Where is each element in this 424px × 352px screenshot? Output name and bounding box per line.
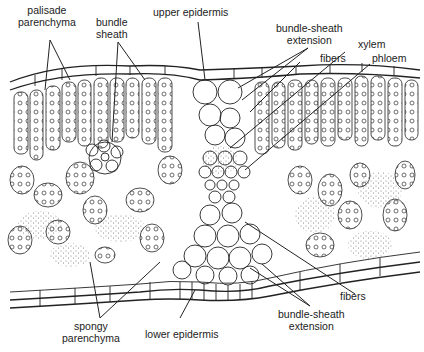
label-spongy-parenchyma: spongy parenchyma <box>62 320 120 344</box>
label-bundle-sheath: bundle sheath <box>96 16 128 40</box>
label-line: sheath <box>96 28 128 40</box>
label-line: palisade <box>18 4 76 16</box>
label-line: extension <box>278 320 345 332</box>
label-line: bundle <box>96 16 128 28</box>
label-phloem: phloem <box>372 52 406 64</box>
label-fibers-bottom: fibers <box>340 290 366 302</box>
label-lower-epidermis: lower epidermis <box>145 328 219 340</box>
label-xylem: xylem <box>358 38 385 50</box>
leaf-cross-section-diagram: palisade parenchyma bundle sheath upper … <box>0 0 424 352</box>
label-line: bundle-sheath <box>276 22 343 34</box>
label-line: bundle-sheath <box>278 308 345 320</box>
label-upper-epidermis: upper epidermis <box>153 6 228 18</box>
label-line: extension <box>276 34 343 46</box>
label-line: parenchyma <box>62 332 120 344</box>
label-palisade-parenchyma: palisade parenchyma <box>18 4 76 28</box>
label-line: spongy <box>62 320 120 332</box>
label-line: parenchyma <box>18 16 76 28</box>
label-bundle-sheath-extension-bottom: bundle-sheath extension <box>278 308 345 332</box>
label-bundle-sheath-extension-top: bundle-sheath extension <box>276 22 343 46</box>
label-fibers-top: fibers <box>320 52 346 64</box>
